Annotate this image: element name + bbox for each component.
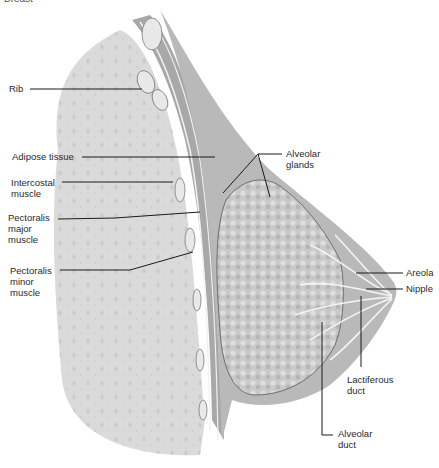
label-nipple: Nipple: [406, 283, 433, 294]
label-pectoralis-minor-muscle: Pectoralis minor muscle: [10, 265, 52, 298]
label-lactiferous-duct: Lactiferous duct: [347, 374, 393, 396]
label-areola: Areola: [406, 267, 433, 278]
anatomy-illustration: [0, 0, 439, 468]
label-alveolar-duct: Alveolar duct: [338, 428, 372, 450]
breast-anatomy-diagram: Breast: [0, 0, 439, 468]
label-adipose-tissue: Adipose tissue: [12, 151, 74, 162]
label-alveolar-glands: Alveolar glands: [286, 148, 320, 170]
label-rib: Rib: [9, 83, 23, 94]
label-pectoralis-major-muscle: Pectoralis major muscle: [8, 212, 50, 245]
label-intercostal-muscle: Intercostal muscle: [11, 177, 55, 199]
